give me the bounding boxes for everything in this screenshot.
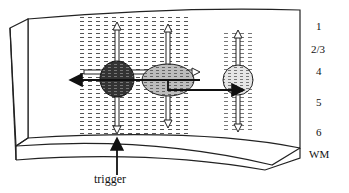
layer-label-4: 4 — [316, 65, 322, 77]
layer-label-5: 5 — [316, 96, 322, 108]
layer-label-1: 1 — [316, 20, 322, 32]
dark-cell — [100, 61, 134, 97]
cortical-slab-diagram — [0, 0, 349, 193]
layer-label-6: 6 — [316, 126, 322, 138]
layer-label-2-3: 2/3 — [311, 43, 325, 55]
layer-label-wm: WM — [309, 148, 329, 160]
trigger-label: trigger — [94, 172, 126, 187]
